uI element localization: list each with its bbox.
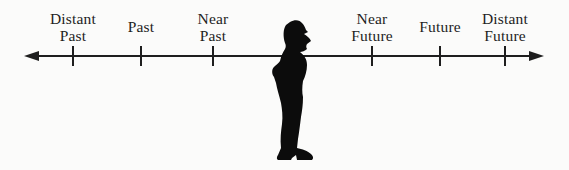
right-arrowhead-icon [529, 51, 544, 61]
tick-label-line: Future [484, 27, 526, 44]
tick-future [439, 46, 441, 66]
tick-distant-past [72, 46, 74, 66]
tick-label-future: Future [419, 19, 461, 36]
tick-label-line: Future [351, 27, 393, 44]
tick-near-past [212, 46, 214, 66]
tick-label-distant-future: DistantFuture [482, 11, 528, 44]
tick-label-line: Distant [482, 11, 528, 28]
tick-near-future [371, 46, 373, 66]
tick-label-line: Past [60, 27, 87, 44]
tick-label-distant-past: DistantPast [50, 11, 96, 44]
tick-label-near-past: NearPast [198, 11, 229, 44]
left-arrowhead-icon [24, 51, 39, 61]
tick-label-line: Past [200, 27, 227, 44]
timeline-figure: DistantPastPastNearPastNearFutureFutureD… [0, 0, 569, 170]
tick-label-line: Near [198, 11, 229, 28]
tick-distant-future [504, 46, 506, 66]
tick-label-near-future: NearFuture [351, 11, 393, 44]
tick-label-past: Past [128, 19, 155, 36]
tick-past [140, 46, 142, 66]
tick-label-line: Near [357, 11, 388, 28]
tick-label-line: Distant [50, 11, 96, 28]
tick-label-line: Future [419, 19, 461, 36]
person-silhouette-icon [271, 19, 315, 161]
tick-label-line: Past [128, 19, 155, 36]
